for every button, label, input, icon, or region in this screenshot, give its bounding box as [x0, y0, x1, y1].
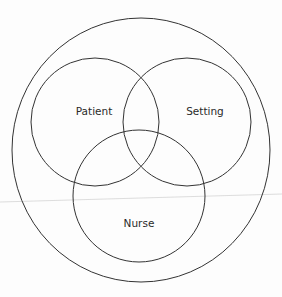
diagram-canvas: Patient Setting Nurse [0, 0, 282, 297]
patient-circle [31, 58, 159, 186]
venn-diagram: Patient Setting Nurse [0, 0, 282, 297]
setting-label: Setting [186, 105, 224, 117]
outer-circle [12, 18, 270, 282]
nurse-label: Nurse [124, 217, 155, 229]
setting-circle [123, 58, 251, 186]
scan-artifact-line [0, 194, 282, 202]
nurse-circle [73, 130, 205, 262]
patient-label: Patient [76, 105, 113, 117]
